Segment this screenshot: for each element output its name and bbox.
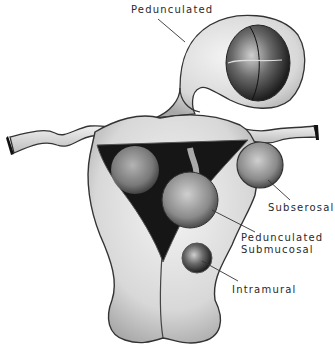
leader-line-pedunculated	[158, 19, 185, 42]
leader-line-subserosal	[268, 180, 290, 200]
label-pedunculated-submucosal-line1: Pedunculated	[241, 232, 323, 244]
subserosal-fibroid	[237, 142, 283, 188]
pedunculated-fibroid	[155, 15, 305, 118]
submucosal-fibroid-left	[111, 146, 159, 194]
intramural-fibroid	[182, 243, 212, 273]
label-pedunculated: Pedunculated	[131, 4, 213, 16]
label-pedunculated-submucosal-line2: Submucosal	[241, 244, 314, 256]
label-subserosal: Subserosal	[268, 202, 335, 214]
label-intramural: Intramural	[232, 284, 297, 296]
pedunculated-fibroid-mass	[226, 25, 290, 101]
